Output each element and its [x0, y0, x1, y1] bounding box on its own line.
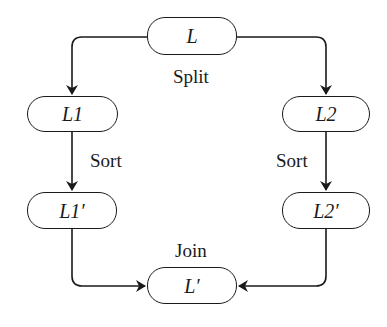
node-l2: L2	[282, 96, 370, 132]
edge-l-to-l1	[72, 37, 147, 94]
node-l-prime-label: L′	[184, 276, 200, 296]
node-l-prime: L′	[147, 267, 237, 304]
sort-right-label: Sort	[276, 151, 308, 170]
split-sort-join-diagram: L L1 L2 L1′ L2′ L′ Split Sort Sort Join	[0, 0, 387, 327]
split-label: Split	[173, 67, 209, 86]
node-l2-label: L2	[315, 104, 336, 124]
node-l1-label: L1	[62, 104, 83, 124]
node-l: L	[147, 17, 237, 55]
node-l-label: L	[186, 26, 197, 46]
node-l1-prime: L1′	[27, 192, 117, 229]
edge-l1prime-to-lprime	[72, 229, 145, 286]
node-l1: L1	[27, 96, 118, 132]
node-l2-prime-label: L2′	[313, 201, 339, 221]
edge-l-to-l2	[237, 37, 326, 94]
node-l2-prime: L2′	[282, 192, 370, 229]
edge-l2prime-to-lprime	[239, 229, 326, 286]
join-label: Join	[175, 241, 207, 260]
node-l1-prime-label: L1′	[59, 201, 85, 221]
sort-left-label: Sort	[90, 151, 122, 170]
